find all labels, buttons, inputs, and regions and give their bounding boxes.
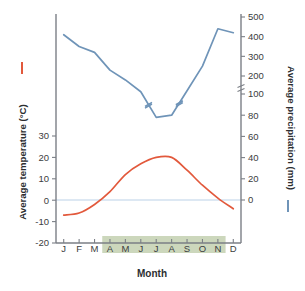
left-axis-ticks: 3020100-10-20 [35,130,56,248]
right-axis-ticks: 020406080100200300400500 [241,11,264,205]
right-tick-label: 100 [248,88,264,99]
right-tick-label: 0 [248,194,253,205]
right-axis-title: Average precipitation (mm) [286,66,297,190]
left-axis-title: Average temperature (°C) [17,104,28,219]
temperature-line [64,156,234,215]
left-tick-label: 0 [44,195,49,206]
month-label-m-2: M [91,243,99,254]
right-tick-label: 60 [248,131,259,142]
right-tick-label: 200 [248,70,264,81]
month-label-s-8: S [184,243,190,254]
month-label-f-1: F [76,243,82,254]
month-label-a-3: A [107,243,114,254]
month-label-m-4: M [121,243,129,254]
left-tick-label: 10 [38,173,49,184]
month-label-n-10: N [214,243,221,254]
right-tick-label: 400 [248,31,264,42]
left-tick-label: 30 [38,130,49,141]
month-label-o-9: O [199,243,206,254]
right-tick-label: 500 [248,11,264,22]
climate-chart: 3020100-10-20 020406080100200300400500 J… [0,0,305,291]
left-tick-label: 20 [38,152,49,163]
left-tick-label: -20 [35,237,49,248]
x-axis-title: Month [137,268,167,279]
left-axis-title-group: Average temperature (°C) [17,62,28,220]
month-label-j-6: J [154,243,159,254]
right-tick-label: 80 [248,110,259,121]
right-tick-label: 20 [248,173,259,184]
month-label-a-7: A [168,243,175,254]
right-axis-title-group: Average precipitation (mm) [286,66,297,212]
left-tick-label: -10 [35,216,49,227]
month-label-j-5: J [138,243,143,254]
chart-svg: 3020100-10-20 020406080100200300400500 J… [0,0,305,291]
right-tick-label: 300 [248,51,264,62]
month-label-d-11: D [230,243,237,254]
right-tick-label: 40 [248,152,259,163]
month-label-j-0: J [61,243,66,254]
